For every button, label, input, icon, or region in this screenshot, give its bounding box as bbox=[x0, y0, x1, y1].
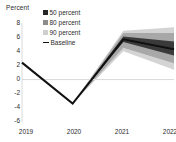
fan-chart: Percent 8 6 4 2 0 -2 -4 -6 2019 2020 202… bbox=[0, 0, 176, 142]
legend-label-50-percent: 50 percent bbox=[50, 8, 81, 17]
legend-item-50-percent: 50 percent bbox=[43, 8, 80, 17]
legend-item-80-percent: 80 percent bbox=[43, 18, 80, 27]
legend-item-90-percent: 90 percent bbox=[43, 28, 80, 37]
legend-marker-baseline bbox=[43, 40, 49, 45]
chart-legend: 50 percent 80 percent 90 percent Baselin… bbox=[43, 8, 80, 47]
legend-label-80-percent: 80 percent bbox=[50, 18, 81, 27]
legend-item-baseline: Baseline bbox=[43, 38, 80, 47]
legend-swatch-80-percent bbox=[43, 20, 48, 25]
legend-swatch-50-percent bbox=[43, 10, 48, 15]
plot-area bbox=[0, 0, 176, 142]
legend-label-90-percent: 90 percent bbox=[50, 28, 81, 37]
legend-label-baseline: Baseline bbox=[51, 38, 76, 47]
legend-swatch-90-percent bbox=[43, 30, 48, 35]
